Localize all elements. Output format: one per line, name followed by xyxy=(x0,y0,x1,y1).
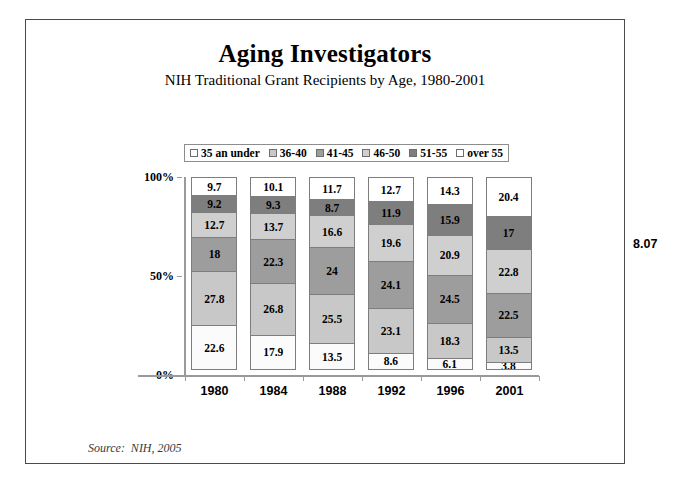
bar-column-1980[interactable]: 9.79.212.71827.822.6 xyxy=(191,177,237,375)
x-axis-labels: 198019841988199219962001 xyxy=(185,384,539,398)
bar-segment-label: 25.5 xyxy=(322,313,342,325)
x-axis-label: 1992 xyxy=(367,384,417,398)
bar-column-1996[interactable]: 14.315.920.924.518.36.1 xyxy=(427,177,473,375)
legend-item-2: 41-45 xyxy=(316,147,354,159)
bar-segment[interactable]: 10.1 xyxy=(250,177,296,197)
bar-segment[interactable]: 9.7 xyxy=(191,177,237,196)
bar-segment[interactable]: 8.7 xyxy=(309,199,355,216)
legend-item-label: 51-55 xyxy=(420,147,447,159)
bar-segment[interactable]: 9.2 xyxy=(191,195,237,213)
x-tick-mark xyxy=(185,376,186,381)
bar-segment[interactable]: 24 xyxy=(309,247,355,295)
bar-segment[interactable]: 22.8 xyxy=(486,249,532,294)
x-axis-label: 1996 xyxy=(426,384,476,398)
y-tick-label: 100% xyxy=(144,170,174,185)
bar-segment-label: 20.9 xyxy=(440,249,460,261)
bar-segment-label: 12.7 xyxy=(204,219,224,231)
bar-column-1984[interactable]: 10.19.313.722.326.817.9 xyxy=(250,177,296,375)
bar-segment-label: 27.8 xyxy=(204,293,224,305)
bar-segment[interactable]: 3.8 xyxy=(486,362,532,370)
legend-item-label: 35 an under xyxy=(201,147,260,159)
x-tick-mark xyxy=(480,376,481,381)
bar-segment-label: 12.7 xyxy=(381,184,401,196)
bar-segment[interactable]: 9.3 xyxy=(250,196,296,214)
bar-segment[interactable]: 25.5 xyxy=(309,294,355,344)
bar-segment[interactable]: 17 xyxy=(486,216,532,250)
bar-segment[interactable]: 12.7 xyxy=(191,212,237,237)
bar-segment-label: 13.5 xyxy=(498,344,518,356)
x-tick-mark xyxy=(362,376,363,381)
page-number: 8.07 xyxy=(633,237,657,251)
bar-segment-label: 22.8 xyxy=(498,266,518,278)
legend-item-label: over 55 xyxy=(467,147,503,159)
bar-segment[interactable]: 27.8 xyxy=(191,271,237,326)
bar-segment-label: 17.9 xyxy=(263,346,283,358)
bar-segment[interactable]: 17.9 xyxy=(250,335,296,370)
bar-segment-label: 8.6 xyxy=(384,355,398,367)
bar-column-1992[interactable]: 12.711.919.624.123.18.6 xyxy=(368,177,414,375)
y-tick-label: 50% xyxy=(150,269,174,284)
bar-segment-label: 24.1 xyxy=(381,279,401,291)
bar-segment[interactable]: 12.7 xyxy=(368,177,414,202)
legend-item-label: 41-45 xyxy=(327,147,354,159)
bar-segment[interactable]: 26.8 xyxy=(250,283,296,336)
bar-segment-label: 18.3 xyxy=(440,335,460,347)
bar-segment[interactable]: 13.7 xyxy=(250,213,296,240)
bar-segment[interactable]: 16.6 xyxy=(309,215,355,248)
bar-segment[interactable]: 13.5 xyxy=(309,343,355,370)
legend-item-label: 36-40 xyxy=(280,147,307,159)
y-tick-mark xyxy=(177,276,182,277)
x-tick-mark xyxy=(539,376,540,381)
x-tick-mark xyxy=(303,376,304,381)
bar-segment-label: 11.9 xyxy=(381,207,401,219)
bar-segment[interactable]: 18 xyxy=(191,237,237,273)
bar-segment[interactable]: 15.9 xyxy=(427,204,473,235)
bar-segment-label: 18 xyxy=(209,248,221,260)
bar-segment[interactable]: 11.7 xyxy=(309,177,355,200)
bar-segment[interactable]: 6.1 xyxy=(427,358,473,370)
x-axis-label: 1984 xyxy=(249,384,299,398)
bar-segment[interactable]: 11.9 xyxy=(368,201,414,225)
chart-legend: 35 an under36-4041-4546-5051-55over 55 xyxy=(184,144,509,162)
bar-segment[interactable]: 20.9 xyxy=(427,235,473,276)
y-axis-labels: 0%50%100% xyxy=(136,177,182,375)
legend-swatch-icon xyxy=(316,149,324,157)
bar-segment-label: 11.7 xyxy=(322,183,342,195)
bar-segment[interactable]: 22.5 xyxy=(486,293,532,338)
x-axis-label: 1980 xyxy=(190,384,240,398)
bar-segment[interactable]: 24.5 xyxy=(427,275,473,324)
bar-segment[interactable]: 8.6 xyxy=(368,353,414,370)
bar-segment[interactable]: 22.3 xyxy=(250,239,296,283)
bar-segment[interactable]: 18.3 xyxy=(427,323,473,359)
bar-segment-label: 22.3 xyxy=(263,256,283,268)
bar-segment-label: 24.5 xyxy=(440,293,460,305)
bar-column-2001[interactable]: 20.41722.822.513.53.8 xyxy=(486,177,532,375)
legend-item-3: 46-50 xyxy=(362,147,400,159)
bar-segment-label: 9.3 xyxy=(266,199,280,211)
bar-segment[interactable]: 23.1 xyxy=(368,308,414,354)
bar-column-1988[interactable]: 11.78.716.62425.513.5 xyxy=(309,177,355,375)
legend-swatch-icon xyxy=(269,149,277,157)
bar-segment[interactable]: 24.1 xyxy=(368,261,414,309)
legend-swatch-icon xyxy=(190,149,198,157)
x-axis-label: 2001 xyxy=(485,384,535,398)
legend-item-5: over 55 xyxy=(456,147,503,159)
bar-segment-label: 22.6 xyxy=(204,342,224,354)
legend-item-1: 36-40 xyxy=(269,147,307,159)
x-tick-mark xyxy=(244,376,245,381)
bar-segment-label: 17 xyxy=(503,227,515,239)
bar-segment[interactable]: 19.6 xyxy=(368,224,414,263)
legend-swatch-icon xyxy=(456,149,464,157)
bar-segment-label: 9.2 xyxy=(207,198,221,210)
bar-segment[interactable]: 13.5 xyxy=(486,337,532,364)
bar-segment[interactable]: 14.3 xyxy=(427,177,473,205)
bar-segment-label: 13.7 xyxy=(263,221,283,233)
bar-segment[interactable]: 22.6 xyxy=(191,325,237,370)
bar-segment-label: 9.7 xyxy=(207,181,221,193)
bar-segment-label: 16.6 xyxy=(322,226,342,238)
bar-segment-label: 22.5 xyxy=(498,309,518,321)
bar-segment[interactable]: 20.4 xyxy=(486,177,532,217)
bar-segment-label: 10.1 xyxy=(263,181,283,193)
bar-segment-label: 13.5 xyxy=(322,351,342,363)
bar-segment-label: 19.6 xyxy=(381,237,401,249)
